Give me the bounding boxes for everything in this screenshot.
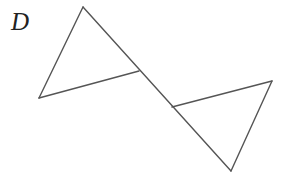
geometry-figure: D xyxy=(0,0,281,176)
upper-triangle-base xyxy=(39,71,139,98)
transversal-line xyxy=(83,7,231,171)
lower-triangle-right-side xyxy=(231,81,272,171)
two-triangles-diagram xyxy=(0,0,281,176)
upper-triangle-left-side xyxy=(39,7,83,98)
lower-triangle-top-side xyxy=(172,81,272,107)
